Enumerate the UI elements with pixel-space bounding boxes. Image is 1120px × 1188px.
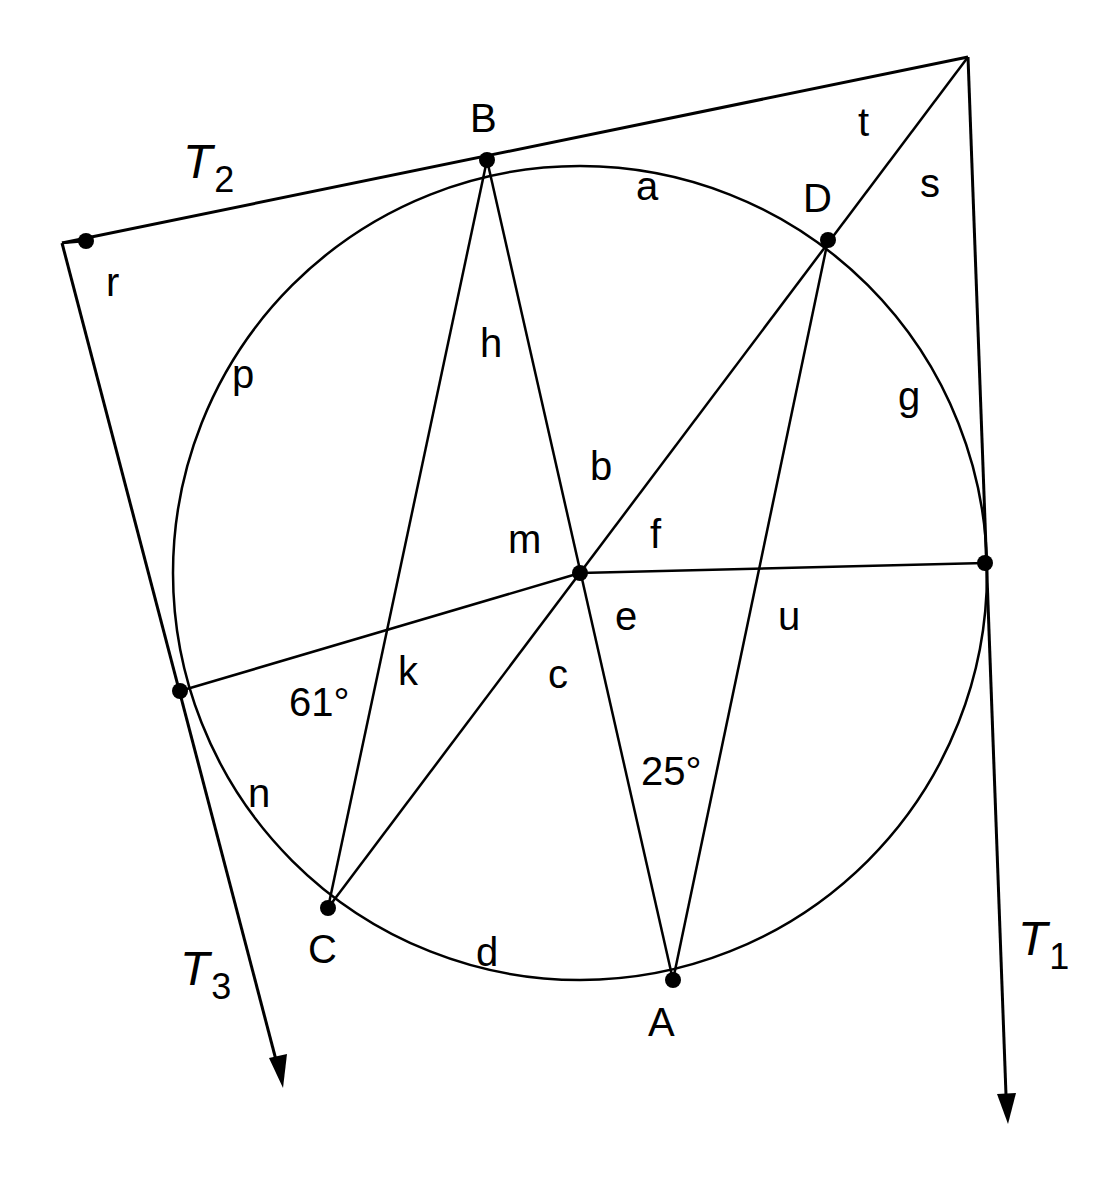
tangent-label-t1: T1 (1018, 912, 1069, 977)
chord-d-a (673, 240, 828, 980)
angle-label-c: c (548, 652, 568, 696)
point-r-dot (78, 233, 94, 249)
point-label-d: D (803, 176, 832, 220)
angle-label-25: 25° (641, 749, 702, 793)
radius-o-e (580, 563, 985, 573)
point-center-o (572, 565, 588, 581)
chord-b-c (328, 160, 487, 908)
angle-label-r: r (106, 260, 119, 304)
point-b (479, 152, 495, 168)
angle-label-f: f (650, 512, 662, 556)
angle-label-k: k (398, 649, 419, 693)
angle-label-61: 61° (289, 680, 350, 724)
tangent-t1-line (968, 57, 1006, 1095)
tangent-label-t3: T3 (180, 942, 231, 1007)
point-c (320, 900, 336, 916)
angle-label-g: g (898, 374, 920, 418)
point-label-b: B (470, 96, 497, 140)
point-d (820, 232, 836, 248)
tangent-t3-arrowhead (269, 1054, 287, 1088)
angle-label-t: t (858, 100, 869, 144)
angle-label-u: u (778, 594, 800, 638)
angle-label-h: h (480, 321, 502, 365)
point-label-c: C (308, 927, 337, 971)
point-label-a: A (648, 1000, 675, 1044)
tangent-t1-arrowhead (997, 1093, 1016, 1124)
angle-label-s: s (920, 161, 940, 205)
angle-label-d: d (476, 930, 498, 974)
radius-o-f (180, 573, 580, 691)
angle-label-m: m (508, 517, 541, 561)
point-a (665, 972, 681, 988)
angle-label-n: n (248, 771, 270, 815)
angle-label-b: b (590, 444, 612, 488)
point-e (977, 555, 993, 571)
angle-label-p: p (232, 352, 254, 396)
angle-label-e: e (615, 594, 637, 638)
tangent-label-t2: T2 (183, 135, 234, 200)
point-f (172, 683, 188, 699)
circle-theorem-diagram: B D C A T2 T1 T3 a t s r p h g b m f e u… (0, 0, 1120, 1188)
angle-label-a: a (636, 164, 659, 208)
